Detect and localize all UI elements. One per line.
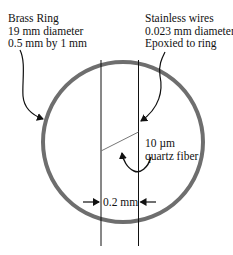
brass-ring-label-line3: 0.5 mm by 1 mm xyxy=(8,37,87,50)
wires-callout-arrow xyxy=(141,52,165,121)
fiber-label: 10 µm quartz fiber xyxy=(145,137,198,162)
brass-ring-label-line2: 19 mm diameter xyxy=(8,25,87,38)
brass-ring-callout-arrow xyxy=(20,50,43,119)
wires-label-line2: 0.023 mm diameter xyxy=(145,25,233,38)
brass-ring-label-line1: Brass Ring xyxy=(8,12,87,25)
brass-ring-label: Brass Ring 19 mm diameter 0.5 mm by 1 mm xyxy=(8,12,87,50)
wires-label-line3: Epoxied to ring xyxy=(145,37,233,50)
quartz-fiber xyxy=(101,132,139,151)
gap-dimension-label: 0.2 mm xyxy=(103,196,137,208)
wires-label-line1: Stainless wires xyxy=(145,12,233,25)
fiber-label-line2: quartz fiber xyxy=(145,150,198,163)
wires-label: Stainless wires 0.023 mm diameter Epoxie… xyxy=(145,12,233,50)
fiber-label-line1: 10 µm xyxy=(145,137,198,150)
